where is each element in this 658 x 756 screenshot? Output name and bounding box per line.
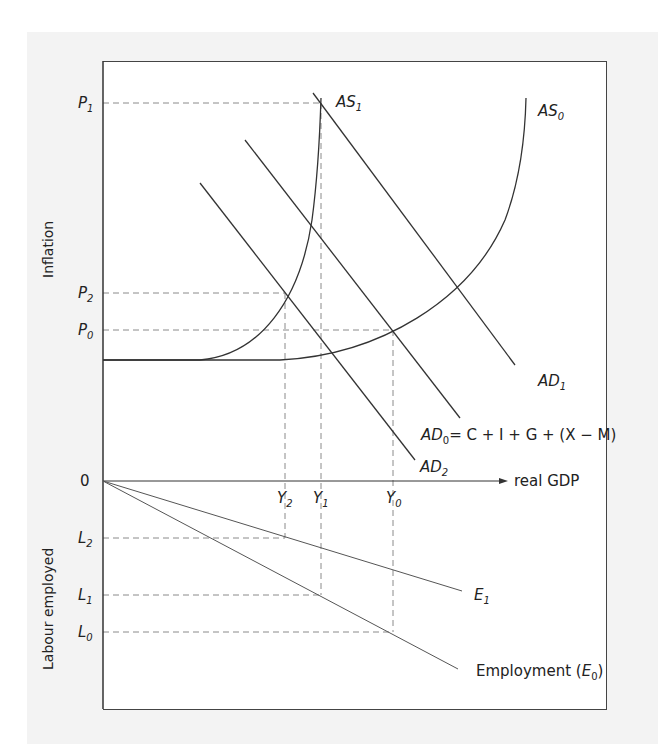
x-axis-arrowhead (499, 478, 508, 484)
as0-label: AS0 (537, 102, 564, 122)
inflation-axis-title: Inflation (40, 221, 56, 278)
p0-label: P0 (78, 321, 93, 341)
ad0-label: AD0= C + I + G + (X − M) (420, 426, 616, 446)
ad1-label: AD1 (537, 372, 566, 392)
ad-as-diagram: P1 P2 P0 0 Y2 Y1 Y0 L2 L1 L0 AS1 AS0 AD1… (0, 0, 658, 756)
e1-label: E1 (474, 586, 490, 606)
ad1-line (313, 93, 515, 365)
l0-label: L0 (78, 623, 93, 643)
guide-lines (103, 103, 393, 632)
x-axis-label: real GDP (514, 472, 579, 490)
e0-label: Employment (E0) (476, 662, 603, 682)
l2-label: L2 (78, 529, 93, 549)
y0-label: Y0 (386, 489, 402, 509)
ad0-line (245, 140, 460, 418)
e0-line (103, 481, 458, 669)
p1-label: P1 (78, 94, 93, 114)
labour-axis-title: Labour employed (40, 548, 56, 670)
as1-curve (103, 98, 321, 360)
ad2-line (200, 183, 415, 460)
as1-label: AS1 (335, 93, 362, 113)
y1-label: Y1 (313, 489, 329, 509)
y2-label: Y2 (277, 489, 293, 509)
l1-label: L1 (78, 586, 93, 606)
origin-label: 0 (80, 472, 90, 490)
p2-label: P2 (78, 284, 93, 304)
ad2-label: AD2 (419, 458, 448, 478)
